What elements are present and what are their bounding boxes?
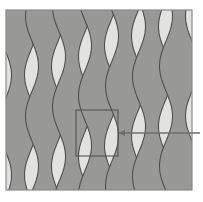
figure-container [0,0,203,202]
wavy-lamellae-figure [0,0,203,202]
